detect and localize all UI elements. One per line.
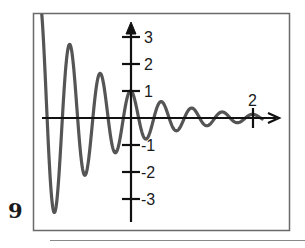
y-axis-arrow-icon — [126, 22, 136, 34]
y-tick-label: 1 — [144, 83, 153, 100]
x-ticks: 2 — [248, 92, 257, 128]
y-tick-label: -1 — [141, 137, 155, 154]
y-axis — [126, 22, 136, 222]
y-tick-label: 2 — [144, 56, 153, 73]
x-tick-label: 2 — [248, 92, 257, 109]
y-tick-label: -3 — [141, 191, 155, 208]
y-tick-label: 3 — [144, 29, 153, 46]
y-tick-label: -2 — [141, 164, 155, 181]
chart: 321-1-2-3 2 — [0, 0, 305, 248]
